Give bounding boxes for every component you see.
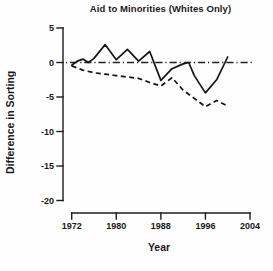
chart-panel: Aid to Minorities (Whites Only) Differen… xyxy=(0,0,273,271)
y-tick-label: -10 xyxy=(41,127,54,137)
y-tick-label: 0 xyxy=(49,58,54,68)
x-tick-label: 1972 xyxy=(62,221,82,231)
y-tick-label: -15 xyxy=(41,161,54,171)
x-tick-label: 2004 xyxy=(240,221,260,231)
x-tick-label: 1988 xyxy=(151,221,171,231)
solid-line xyxy=(72,45,228,93)
dashed-line xyxy=(72,66,228,107)
x-tick-label: 1996 xyxy=(195,221,215,231)
plot-area: 50-5-10-15-2019721980198819962004 xyxy=(0,0,273,271)
y-tick-label: -20 xyxy=(41,196,54,206)
y-tick-label: -5 xyxy=(46,92,54,102)
y-tick-label: 5 xyxy=(49,23,54,33)
x-tick-label: 1980 xyxy=(106,221,126,231)
x-axis-label: Year xyxy=(45,241,273,253)
